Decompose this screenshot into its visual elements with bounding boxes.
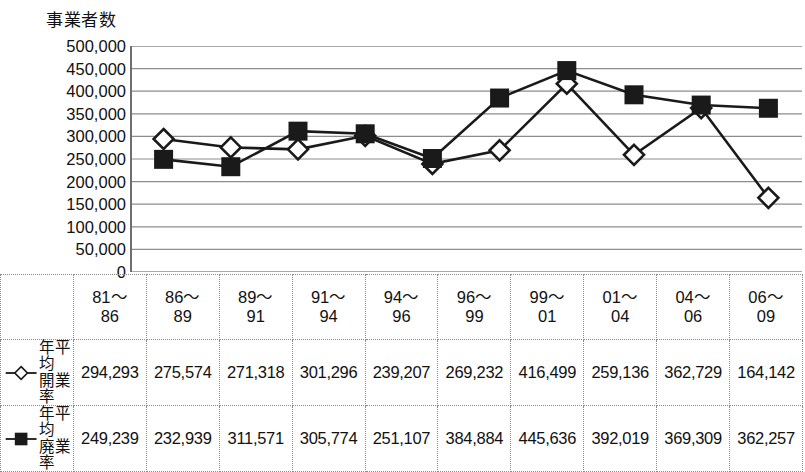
y-tick-label: 350,000 — [28, 106, 126, 123]
closing-value-cell: 445,636 — [511, 406, 584, 472]
period-header-cell: 81～ 86 — [73, 275, 146, 340]
data-point-marker — [424, 150, 441, 167]
data-point-marker — [558, 62, 575, 79]
data-point-marker — [357, 125, 374, 142]
opening-value-cell: 294,293 — [73, 340, 146, 406]
legend-cell-closing: 年平均 廃業率 — [1, 406, 74, 472]
period-header-cell: 96～ 99 — [438, 275, 511, 340]
data-point-marker — [626, 86, 643, 103]
data-point-marker — [154, 129, 174, 149]
opening-value-cell: 259,136 — [584, 340, 657, 406]
period-header-cell: 94～ 96 — [365, 275, 438, 340]
closing-value-cell: 249,239 — [73, 406, 146, 472]
opening-value-cell: 362,729 — [657, 340, 730, 406]
legend-cell-opening: 年平均 開業率 — [1, 340, 74, 406]
data-point-marker — [693, 97, 710, 114]
y-tick-label: 100,000 — [28, 219, 126, 236]
closing-value-cell: 311,571 — [219, 406, 292, 472]
opening-value-cell: 275,574 — [146, 340, 219, 406]
period-header-cell: 91～ 94 — [292, 275, 365, 340]
opening-value-cell: 416,499 — [511, 340, 584, 406]
opening-value-cell: 239,207 — [365, 340, 438, 406]
filled-square-icon — [5, 426, 37, 452]
table-row-periods: 81～ 8686～ 8989～ 9191～ 9494～ 9696～ 9999～ … — [1, 275, 803, 340]
closing-value-cell: 384,884 — [438, 406, 511, 472]
open-diamond-icon — [5, 360, 37, 386]
y-tick-label: 200,000 — [28, 173, 126, 190]
closing-value-cell: 362,257 — [730, 406, 803, 472]
opening-value-cell: 164,142 — [730, 340, 803, 406]
y-tick-label: 50,000 — [28, 241, 126, 258]
y-tick-label: 500,000 — [28, 38, 126, 55]
period-header-cell: 89～ 91 — [219, 275, 292, 340]
y-tick-label: 300,000 — [28, 128, 126, 145]
closing-value-cell: 392,019 — [584, 406, 657, 472]
data-point-marker — [222, 158, 239, 175]
data-point-marker — [491, 90, 508, 107]
legend-label-opening: 年平均 開業率 — [39, 340, 73, 405]
y-tick-label: 450,000 — [28, 60, 126, 77]
data-point-marker — [155, 151, 172, 168]
period-header-cell: 04～ 06 — [657, 275, 730, 340]
data-point-marker — [221, 137, 241, 157]
data-point-marker — [290, 123, 307, 140]
y-tick-label: 250,000 — [28, 151, 126, 168]
table-row-closing: 年平均 廃業率 249,239232,939311,571305,774251,… — [1, 406, 803, 472]
y-axis-tick-labels: 500,000450,000400,000350,000300,000250,0… — [28, 46, 126, 272]
plot-area — [130, 46, 802, 272]
data-point-marker — [758, 188, 778, 208]
data-point-marker — [760, 100, 777, 117]
opening-value-cell: 269,232 — [438, 340, 511, 406]
closing-value-cell: 251,107 — [365, 406, 438, 472]
closing-value-cell: 232,939 — [146, 406, 219, 472]
data-table: 81～ 8686～ 8989～ 9191～ 9494～ 9696～ 9999～ … — [0, 274, 803, 472]
y-tick-label: 400,000 — [28, 83, 126, 100]
period-header-cell: 01～ 04 — [584, 275, 657, 340]
y-axis-title: 事業者数 — [46, 6, 116, 31]
closing-value-cell: 305,774 — [292, 406, 365, 472]
opening-value-cell: 301,296 — [292, 340, 365, 406]
period-header-cell: 86～ 89 — [146, 275, 219, 340]
closing-value-cell: 369,309 — [657, 406, 730, 472]
y-tick-label: 150,000 — [28, 196, 126, 213]
period-header-cell: 06～ 09 — [730, 275, 803, 340]
legend-label-closing: 年平均 廃業率 — [39, 406, 73, 471]
series-line-2 — [164, 71, 769, 167]
table-corner-blank — [1, 275, 74, 340]
table-row-opening: 年平均 開業率 294,293275,574271,318301,296239,… — [1, 340, 803, 406]
data-point-marker — [288, 139, 308, 159]
opening-value-cell: 271,318 — [219, 340, 292, 406]
plot-svg — [130, 46, 802, 272]
period-header-cell: 99～ 01 — [511, 275, 584, 340]
